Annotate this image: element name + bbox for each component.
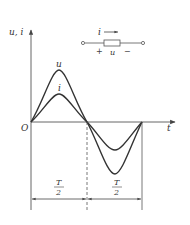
resistor-circuit-symbol: i + u − [81, 27, 144, 57]
curve-label-i: i [58, 83, 61, 93]
x-axis-label: t [167, 123, 171, 133]
y-axis-label: u, i [9, 27, 24, 37]
minus-sign: − [124, 47, 131, 56]
terminal-left-icon [81, 41, 84, 44]
resistor-icon [104, 40, 120, 46]
dimension-first-half: T 2 [32, 178, 86, 199]
terminal-right-icon [141, 41, 144, 44]
curve-label-u: u [56, 59, 62, 69]
dimension-second-half: T 2 [88, 178, 141, 199]
circuit-voltage-label: u [110, 48, 115, 57]
dim-label-num-1: T [56, 178, 62, 187]
dim-label-den-2: 2 [113, 188, 119, 197]
dim-label-den-1: 2 [55, 188, 61, 197]
dim-label-num-2: T [114, 178, 120, 187]
circuit-current-label: i [98, 27, 101, 37]
origin-label: O [21, 123, 29, 133]
plus-sign: + [96, 47, 103, 56]
sine-waveform-diagram: u, i t O u i T 2 T 2 i + u − [0, 0, 190, 225]
